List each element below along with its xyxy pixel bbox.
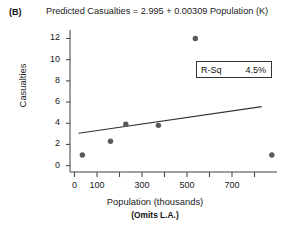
y-tick-label: 2 [38, 138, 60, 148]
y-axis-ticks [66, 38, 70, 165]
x-tick-label: 700 [217, 180, 247, 190]
y-axis-title: Casualties [17, 46, 28, 126]
x-axis-title: Population (thousands) [40, 196, 270, 207]
y-tick-label: 8 [38, 75, 60, 85]
data-point [80, 152, 85, 157]
x-axis-ticks [75, 172, 255, 177]
x-tick-label: 500 [172, 180, 202, 190]
data-point [269, 152, 274, 157]
figure-panel-b: (B) Predicted Casualties = 2.995 + 0.003… [0, 0, 295, 227]
data-point [156, 123, 161, 128]
regression-fit-line [79, 107, 262, 134]
r-squared-value: 4.5% [245, 65, 266, 75]
x-tick-label: 300 [127, 180, 157, 190]
r-squared-annotation-box: R-Sq 4.5% [196, 61, 272, 78]
data-point [123, 122, 128, 127]
data-point-group [80, 36, 275, 158]
y-tick-label: 12 [38, 32, 60, 42]
y-tick-label: 6 [38, 96, 60, 106]
y-tick-label: 0 [38, 160, 60, 170]
x-axis-subtitle: (Omits L.A.) [40, 210, 270, 220]
r-squared-label: R-Sq [201, 65, 222, 75]
x-tick-label: 100 [82, 180, 112, 190]
data-point [108, 139, 113, 144]
data-point [193, 36, 198, 41]
y-tick-label: 4 [38, 117, 60, 127]
y-tick-label: 10 [38, 54, 60, 64]
